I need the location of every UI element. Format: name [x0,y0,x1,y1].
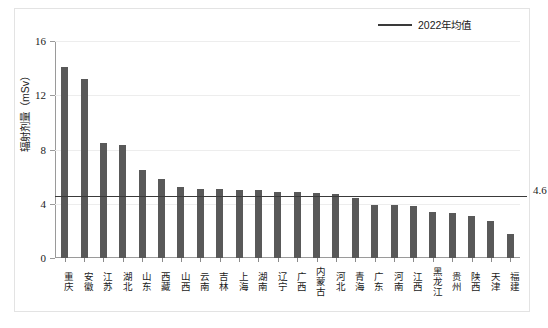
bar[interactable] [371,205,378,258]
y-tick-label-8: 8 [41,144,47,156]
bar-slot [423,41,442,258]
bar-series [55,41,520,258]
x-axis-label: 内蒙古 [307,262,326,302]
y-tick-label-0: 0 [41,252,47,264]
legend-line-swatch [378,24,412,26]
bar-slot [249,41,268,258]
bar[interactable] [507,234,514,258]
x-axis-label: 青海 [346,262,365,302]
x-axis-label: 贵州 [443,262,462,302]
x-axis-label: 湖北 [113,262,132,302]
y-tick-0 [50,258,55,259]
bar[interactable] [81,79,88,258]
bar-slot [210,41,229,258]
bar[interactable] [158,179,165,258]
average-value-label: 4.6 [533,184,547,196]
x-axis-label: 湖南 [249,262,268,302]
y-tick-label-12: 12 [35,89,46,101]
x-axis-label: 西藏 [152,262,171,302]
x-axis-label: 辽宁 [268,262,287,302]
bar-slot [133,41,152,258]
bar-slot [462,41,481,258]
y-axis-title: 辐射剂量（mSv） [17,42,32,182]
bar-slot [443,41,462,258]
x-axis-label: 重庆 [55,262,74,302]
chart-figure: 2022年均值 辐射剂量（mSv） 0481216 4.6 重庆安徽江苏湖北山东… [0,0,548,328]
x-axis-label: 山西 [171,262,190,302]
x-axis-label: 陕西 [462,262,481,302]
bar-slot [365,41,384,258]
bar-slot [191,41,210,258]
bar[interactable] [274,192,281,258]
y-tick-label-4: 4 [41,198,47,210]
bar-slot [55,41,74,258]
bar[interactable] [429,212,436,258]
bar-slot [229,41,248,258]
bar[interactable] [468,216,475,258]
bar-slot [307,41,326,258]
legend-label-average: 2022年均值 [418,20,471,31]
bar[interactable] [391,205,398,258]
bar[interactable] [216,189,223,258]
bar[interactable] [177,187,184,258]
y-tick-label-16: 16 [35,35,46,47]
x-axis-label: 黑龙江 [423,262,442,302]
bar-slot [346,41,365,258]
bar[interactable] [352,198,359,258]
bar[interactable] [313,193,320,258]
plot-area: 0481216 4.6 [55,41,520,258]
x-axis-label: 云南 [191,262,210,302]
x-axis-label: 广西 [288,262,307,302]
bar-slot [384,41,403,258]
bar[interactable] [255,190,262,258]
x-axis-label: 吉林 [210,262,229,302]
bar[interactable] [61,67,68,258]
bar-slot [94,41,113,258]
x-axis-label: 广东 [365,262,384,302]
x-axis-label: 江苏 [94,262,113,302]
bar[interactable] [487,221,494,258]
bar-slot [288,41,307,258]
bar[interactable] [332,194,339,258]
bar-slot [268,41,287,258]
average-reference-line [55,196,527,197]
bar[interactable] [294,192,301,258]
x-axis-labels: 重庆安徽江苏湖北山东西藏山西云南吉林上海湖南辽宁广西内蒙古河北青海广东河南江西黑… [55,262,520,302]
x-axis-label: 河北 [326,262,345,302]
chart-legend: 2022年均值 [378,18,471,32]
x-axis-label: 山东 [133,262,152,302]
bar-slot [113,41,132,258]
bar-slot [74,41,93,258]
bar-slot [326,41,345,258]
bar-slot [404,41,423,258]
x-axis-label: 福建 [501,262,520,302]
bar-slot [481,41,500,258]
bar[interactable] [236,190,243,258]
bar[interactable] [139,170,146,258]
x-axis-label: 安徽 [74,262,93,302]
bar-slot [501,41,520,258]
x-axis-label: 江西 [404,262,423,302]
bar[interactable] [197,189,204,258]
bar[interactable] [119,145,126,258]
x-axis-label: 上海 [229,262,248,302]
bar[interactable] [410,206,417,258]
bar-slot [152,41,171,258]
bar[interactable] [449,213,456,258]
x-axis-label: 天津 [481,262,500,302]
bar-slot [171,41,190,258]
bar[interactable] [100,143,107,258]
x-axis-label: 河南 [384,262,403,302]
